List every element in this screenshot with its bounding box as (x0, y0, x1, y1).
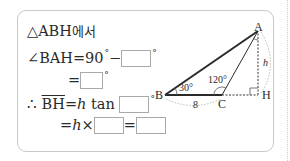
point-a-label: A (254, 20, 263, 34)
side-bc-label: 8 (193, 99, 198, 110)
point-b-label: B (155, 88, 163, 102)
angle-c-label: 120° (208, 74, 227, 85)
side-ah-label: h (263, 57, 268, 68)
right-angle-mark (250, 88, 258, 95)
triangle-diagram: A B C H 30° 120° 8 h (0, 0, 290, 161)
angle-b-arc (175, 88, 177, 95)
point-h-label: H (262, 88, 271, 102)
segment-ac (222, 31, 258, 95)
point-c-label: C (218, 97, 226, 111)
angle-b-label: 30° (179, 82, 193, 93)
